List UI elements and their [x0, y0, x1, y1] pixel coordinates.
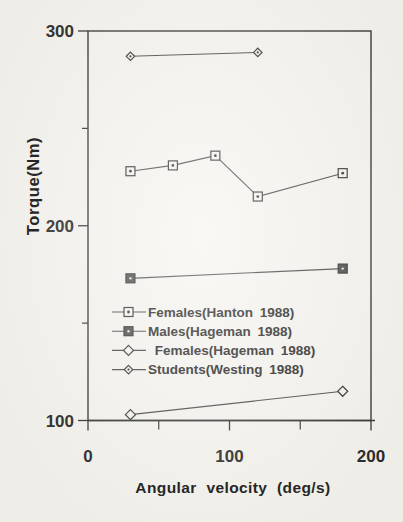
- x-axis-title: Angular velocity (deg/s): [135, 479, 330, 497]
- marker-dot: [256, 195, 259, 198]
- torque-vs-angular-velocity-chart: 1002003000100200Females(Hanton 1988)Male…: [0, 0, 403, 522]
- scanned-figure-page: Torque(Nm) 1002003000100200Females(Hanto…: [0, 0, 403, 522]
- series-line: [130, 156, 342, 197]
- legend-label: Students(Westing 1988): [148, 362, 304, 377]
- marker-dot: [129, 170, 132, 173]
- marker-dot: [127, 311, 130, 314]
- series-line: [130, 391, 342, 414]
- marker-open-diamond: [338, 386, 348, 396]
- marker-open-diamond: [124, 345, 134, 355]
- series-line: [130, 52, 257, 56]
- series-line: [130, 269, 342, 279]
- marker-open-diamond: [125, 410, 135, 420]
- x-tick-label: 200: [357, 447, 385, 466]
- marker-dot: [127, 330, 129, 332]
- marker-dot: [214, 154, 217, 157]
- marker-dot: [127, 369, 129, 371]
- marker-dot: [172, 164, 175, 167]
- legend-label: Females(Hanton 1988): [148, 305, 294, 320]
- marker-dot: [129, 277, 131, 279]
- marker-dot: [342, 267, 344, 269]
- y-tick-label: 200: [46, 217, 74, 236]
- marker-dot: [129, 55, 131, 57]
- y-tick-label: 100: [46, 412, 74, 431]
- marker-dot: [257, 51, 259, 53]
- legend-label: Females(Hageman 1988): [148, 343, 315, 358]
- x-tick-label: 0: [83, 447, 92, 466]
- marker-dot: [341, 172, 344, 175]
- y-axis-title: Torque(Nm): [24, 137, 43, 235]
- legend-label: Males(Hageman 1988): [148, 324, 292, 339]
- x-tick-label: 100: [215, 447, 243, 466]
- y-tick-label: 300: [46, 22, 74, 41]
